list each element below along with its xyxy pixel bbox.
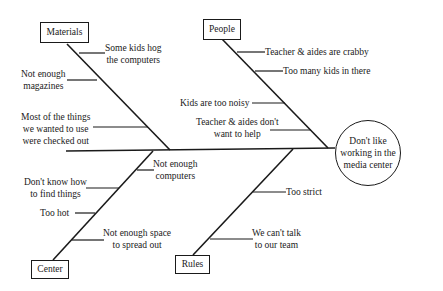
- spine: [66, 148, 335, 151]
- cause-label: Too strict: [286, 186, 322, 198]
- category-label: Center: [37, 265, 62, 275]
- cause-label: Most of the things we wanted to use were…: [21, 111, 90, 147]
- cause-label: Some kids hog the computers: [105, 42, 161, 66]
- cause-label: We can't talk to our team: [252, 227, 301, 251]
- cause-label: Not enough space to spread out: [103, 227, 171, 251]
- cause-label: Too many kids in there: [283, 65, 370, 77]
- category-label: Rules: [182, 260, 204, 270]
- cause-label: Kids are too noisy: [180, 97, 249, 109]
- category-label: Materials: [47, 28, 83, 38]
- category-materials: Materials: [40, 22, 89, 43]
- effect-label: Don't like working in the media center: [340, 135, 395, 171]
- effect-head: Don't like working in the media center: [335, 120, 401, 186]
- category-center: Center: [31, 260, 69, 279]
- category-label: People: [209, 25, 235, 35]
- cause-label: Too hot: [40, 207, 69, 219]
- cause-label: Teacher & aides are crabby: [265, 46, 369, 58]
- cause-label: Not enough computers: [153, 158, 198, 182]
- cause-label: Don't know how to find things: [24, 176, 87, 200]
- cause-label: Not enough magazines: [21, 68, 66, 92]
- category-rules: Rules: [175, 255, 210, 274]
- cause-label: Teacher & aides don't want to help: [196, 116, 279, 140]
- category-people: People: [203, 19, 241, 40]
